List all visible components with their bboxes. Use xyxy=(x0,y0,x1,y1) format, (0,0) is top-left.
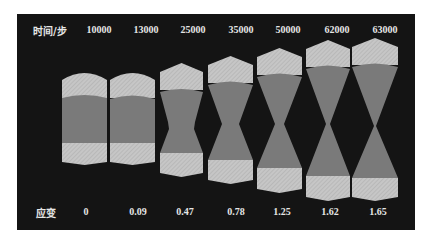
specimen-5 xyxy=(257,48,302,193)
specimen-1 xyxy=(62,73,107,165)
figure-panel: 时间/步 应变 10000 13000 25000 35000 50000 62… xyxy=(17,14,415,230)
specimen-7 xyxy=(352,38,398,201)
specimen-4 xyxy=(208,56,253,184)
specimen-3 xyxy=(160,63,203,177)
specimen-illustrations xyxy=(17,14,415,230)
specimen-2 xyxy=(110,73,155,165)
specimen-6 xyxy=(306,40,350,201)
